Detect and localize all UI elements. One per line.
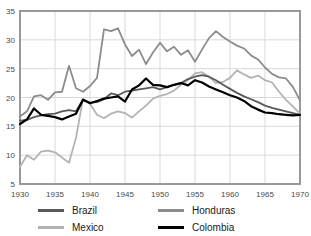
y-axis-tick-labels: 5101520253035: [6, 7, 15, 189]
legend-label-brazil: Brazil: [72, 205, 97, 216]
legend-item-colombia[interactable]: Colombia: [150, 219, 311, 236]
x-tick-label: 1960: [221, 190, 239, 199]
plot-area: 5101520253035 19301935194019451950195519…: [0, 0, 311, 200]
chart-legend: Brazil Honduras Mexico Colombia: [0, 202, 311, 236]
legend-label-colombia: Colombia: [192, 222, 234, 233]
y-tick-label: 15: [6, 122, 15, 131]
y-tick-label: 10: [6, 151, 15, 160]
legend-swatch-colombia: [158, 226, 184, 229]
legend-item-mexico[interactable]: Mexico: [0, 219, 150, 236]
x-axis-tick-labels: 193019351940194519501955196019651970: [11, 190, 309, 199]
x-tick-label: 1950: [151, 190, 169, 199]
y-tick-label: 5: [11, 180, 16, 189]
x-tick-label: 1940: [81, 190, 99, 199]
legend-item-honduras[interactable]: Honduras: [150, 202, 311, 219]
legend-item-brazil[interactable]: Brazil: [0, 202, 150, 219]
legend-swatch-mexico: [38, 226, 64, 229]
x-tick-label: 1965: [256, 190, 274, 199]
x-tick-label: 1970: [291, 190, 309, 199]
line-chart-svg: 5101520253035 19301935194019451950195519…: [0, 0, 311, 200]
chart-container: 5101520253035 19301935194019451950195519…: [0, 0, 311, 236]
legend-label-mexico: Mexico: [72, 222, 104, 233]
y-tick-label: 20: [6, 94, 15, 103]
y-tick-label: 25: [6, 65, 15, 74]
y-tick-label: 30: [6, 36, 15, 45]
legend-swatch-brazil: [38, 209, 64, 212]
legend-swatch-honduras: [158, 209, 184, 212]
y-tick-label: 35: [6, 7, 15, 16]
x-tick-label: 1955: [186, 190, 204, 199]
x-tick-label: 1935: [46, 190, 64, 199]
x-tick-label: 1945: [116, 190, 134, 199]
legend-label-honduras: Honduras: [192, 205, 235, 216]
x-tick-label: 1930: [11, 190, 29, 199]
